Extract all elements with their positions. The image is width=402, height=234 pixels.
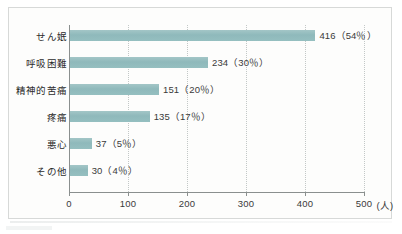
x-tick-label-500: 500 [356, 198, 372, 209]
bar-6 [70, 165, 88, 176]
bar-value-label-1: 416（54％） [319, 30, 376, 41]
x-tick-label-300: 300 [238, 198, 254, 209]
bar-row: 疼痛135（17％） [9, 111, 393, 138]
bar-value-label-3: 151（20％） [163, 84, 220, 95]
bar-5 [70, 138, 92, 149]
category-label-2: 呼吸困難 [0, 58, 67, 69]
bar-value-label-6: 30（4％） [92, 165, 138, 176]
bar-value-label-2: 234（30％） [212, 57, 269, 68]
chart-panel: せん姄416（54％）呼吸困難234（30％）精神的苦痛151（20％）疼痛13… [8, 7, 392, 219]
panel-shadow [10, 221, 392, 223]
x-tick-label-0: 0 [66, 198, 71, 209]
bar-value-label-5: 37（5％） [96, 138, 142, 149]
category-label-6: その他 [0, 166, 67, 177]
category-label-4: 疼痛 [0, 112, 67, 123]
bar-1 [70, 30, 315, 41]
bar-row: 精神的苦痛151（20％） [9, 84, 393, 111]
plot-area: せん姄416（54％）呼吸困難234（30％）精神的苦痛151（20％）疼痛13… [9, 8, 393, 220]
x-tick-label-100: 100 [120, 198, 136, 209]
bar-4 [70, 111, 150, 122]
x-tick-label-400: 400 [297, 198, 313, 209]
bar-value-label-4: 135（17％） [154, 111, 211, 122]
x-tick-mark-500 [364, 192, 365, 196]
category-label-1: せん姄 [0, 31, 67, 42]
bar-row: せん姄416（54％） [9, 30, 393, 57]
category-label-3: 精神的苦痛 [0, 85, 67, 96]
category-label-5: 悪心 [0, 139, 67, 150]
chart-figure: せん姄416（54％）呼吸困難234（30％）精神的苦痛151（20％）疼痛13… [0, 0, 402, 234]
x-axis-line [69, 192, 364, 193]
x-axis-unit-label: (人) [377, 198, 394, 212]
bar-row: 呼吸困難234（30％） [9, 57, 393, 84]
x-tick-label-200: 200 [179, 198, 195, 209]
bar-2 [70, 57, 208, 68]
bar-row: その他30（4％） [9, 165, 393, 192]
bar-3 [70, 84, 159, 95]
panel-corner-artifact [6, 226, 52, 230]
bar-row: 悪心37（5％） [9, 138, 393, 165]
